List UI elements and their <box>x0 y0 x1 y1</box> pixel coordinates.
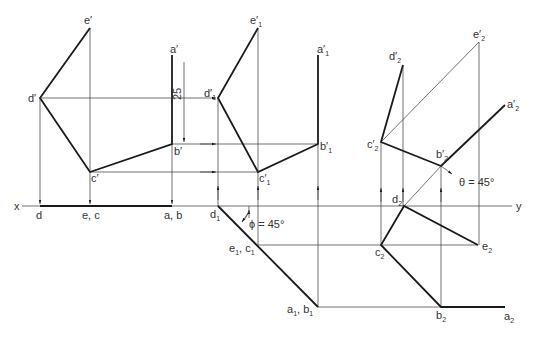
label-d-prime: d′ <box>28 92 36 104</box>
label-d1-prime: d′1 <box>204 87 216 101</box>
view1-elevation-outline <box>40 28 172 172</box>
label-a1-b1: a1, b1 <box>287 303 313 317</box>
label-c-prime: c′ <box>91 172 99 184</box>
label-y: y <box>516 200 522 212</box>
view3-plan-outline <box>381 206 505 307</box>
label-c1-prime: c′1 <box>259 172 271 186</box>
label-a1-prime: a′1 <box>317 43 329 57</box>
label-a-prime: a′ <box>170 43 178 55</box>
view3-elevation-outline <box>381 65 441 166</box>
label-d2: d2 <box>392 193 402 207</box>
label-a2: a2 <box>504 310 514 324</box>
view2-elevation-outline <box>218 28 318 172</box>
label-a2-prime: a′2 <box>507 98 519 112</box>
label-b-prime: b′ <box>174 145 182 157</box>
projection-drawing: e′ d′ c′ b′ a′ 25 x d e, c a, b e′1 d′1 … <box>0 0 538 337</box>
label-c2-prime: c′2 <box>367 138 379 152</box>
label-b1-prime: b′1 <box>320 140 332 154</box>
view3-edge-ab <box>441 105 505 166</box>
label-e-c: e, c <box>82 209 100 221</box>
dimension-25: 25 <box>171 88 183 100</box>
label-b2-prime: b′2 <box>436 148 448 162</box>
label-e2-prime: e′2 <box>473 28 485 42</box>
label-d2-prime: d′2 <box>389 50 401 64</box>
view3: e′2 d′2 c′2 b′2 a′2 θ = 45° d2 c2 e2 b2 … <box>367 28 522 324</box>
label-e1-prime: e′1 <box>250 14 262 28</box>
label-b2: b2 <box>436 309 446 323</box>
view2: e′1 d′1 c′1 b′1 a′1 d1 e1, c1 a1, b1 ϕ =… <box>204 14 505 317</box>
label-e1-c1: e1, c1 <box>229 242 255 256</box>
label-e2: e2 <box>482 240 492 254</box>
angle-theta-label: θ = 45° <box>459 176 494 188</box>
label-d1: d1 <box>210 208 220 222</box>
label-a-b: a, b <box>164 209 182 221</box>
label-d: d <box>36 209 42 221</box>
view1: e′ d′ c′ b′ a′ 25 x d e, c a, b <box>14 14 318 221</box>
angle-phi-label: ϕ = 45° <box>249 218 284 230</box>
label-e-prime: e′ <box>84 14 92 26</box>
label-x: x <box>14 200 20 212</box>
